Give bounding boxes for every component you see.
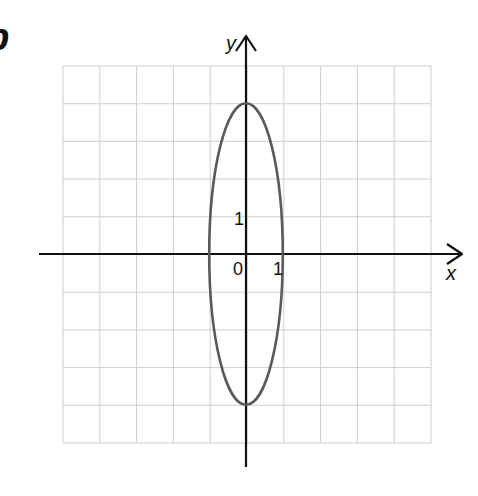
x-tick-label-1: 1 [273,259,283,279]
figure: b y x 0 1 1 [0,0,478,496]
x-axis-label: x [445,262,457,284]
y-axis-label: y [224,32,237,54]
origin-label: 0 [233,259,243,279]
chart-svg: y x 0 1 1 [0,0,478,496]
y-tick-label-1: 1 [234,209,244,229]
